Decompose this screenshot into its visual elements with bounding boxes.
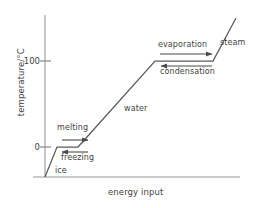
annotation-evaporation: evaporation	[158, 41, 207, 49]
annotation-condensation: condensation	[160, 68, 215, 76]
heating-curve-figure: temperature/°C energy input 100 0 ice me…	[0, 0, 257, 208]
annotation-ice: ice	[55, 167, 67, 175]
x-axis-label: energy input	[108, 188, 163, 197]
annotation-water: water	[124, 105, 147, 113]
annotation-melting: melting	[57, 124, 88, 132]
y-tick-label-0: 0	[28, 143, 40, 152]
annotation-freezing: freezing	[61, 154, 94, 162]
annotation-steam: steam	[220, 39, 245, 47]
y-tick-label-100: 100	[16, 57, 40, 66]
y-axis-label: temperature/°C	[17, 34, 26, 130]
